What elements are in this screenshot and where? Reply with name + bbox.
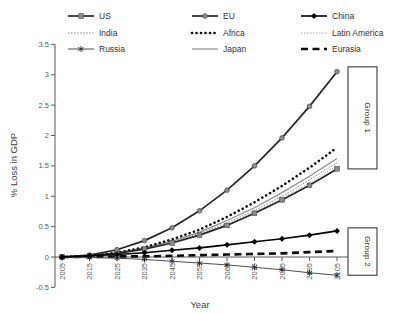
x-tick-label: 2005 bbox=[58, 263, 67, 280]
legend-label: US bbox=[99, 11, 111, 21]
legend-item-japan: Japan bbox=[192, 44, 246, 54]
y-tick-label: 3 bbox=[45, 70, 49, 79]
y-axis-title: % Loss in GDP bbox=[8, 133, 19, 197]
x-axis: 2005201520252035204520552065207520852095… bbox=[55, 257, 348, 280]
x-tick-label: 2035 bbox=[140, 263, 149, 280]
x-tick-label: 2015 bbox=[85, 263, 94, 280]
legend-label: Japan bbox=[223, 44, 246, 54]
group-annotations: Group 1Group 2 bbox=[348, 67, 377, 275]
y-axis: 3.532.521.510.50-0.5 bbox=[36, 40, 55, 292]
y-tick-label: -0.5 bbox=[36, 283, 49, 292]
legend: USEUChinaIndiaAfricaLatin AmericaRussiaJ… bbox=[68, 11, 384, 54]
legend-item-latin-america: Latin America bbox=[301, 28, 384, 38]
legend-item-russia: Russia bbox=[68, 44, 125, 54]
annotation-label: Group 2 bbox=[363, 236, 372, 267]
annotation-label: Group 1 bbox=[363, 102, 372, 133]
y-tick-label: 3.5 bbox=[39, 40, 49, 49]
y-tick-label: 1 bbox=[45, 192, 49, 201]
legend-item-eu: EU bbox=[192, 11, 235, 21]
y-tick-label: 0.5 bbox=[39, 222, 49, 231]
y-tick-label: 2.5 bbox=[39, 101, 49, 110]
legend-label: EU bbox=[223, 11, 235, 21]
x-tick-label: 2025 bbox=[113, 263, 122, 280]
y-tick-label: 0 bbox=[45, 253, 49, 262]
series-eu bbox=[60, 69, 340, 259]
legend-item-china: China bbox=[301, 11, 354, 21]
y-tick-label: 1.5 bbox=[39, 161, 49, 170]
x-axis-title: Year bbox=[190, 299, 209, 310]
legend-label: Latin America bbox=[332, 28, 384, 38]
y-tick-label: 2 bbox=[45, 131, 49, 140]
legend-item-us: US bbox=[68, 11, 111, 21]
legend-label: India bbox=[99, 28, 118, 38]
series-africa bbox=[62, 148, 337, 257]
legend-label: Africa bbox=[223, 28, 245, 38]
legend-item-africa: Africa bbox=[192, 28, 245, 38]
annotation-group-1: Group 1 bbox=[348, 67, 377, 169]
annotation-group-2: Group 2 bbox=[348, 228, 377, 275]
gdp-loss-line-chart: 3.532.521.510.50-0.520052015202520352045… bbox=[0, 0, 396, 314]
legend-label: Eurasia bbox=[332, 44, 361, 54]
x-tick-label: 2045 bbox=[168, 263, 177, 280]
chart-figure: 3.532.521.510.50-0.520052015202520352045… bbox=[0, 0, 396, 314]
plot-area bbox=[59, 69, 340, 278]
series-japan bbox=[62, 159, 337, 257]
legend-label: China bbox=[332, 11, 354, 21]
legend-label: Russia bbox=[99, 44, 125, 54]
legend-item-india: India bbox=[68, 28, 118, 38]
legend-item-eurasia: Eurasia bbox=[301, 44, 361, 54]
